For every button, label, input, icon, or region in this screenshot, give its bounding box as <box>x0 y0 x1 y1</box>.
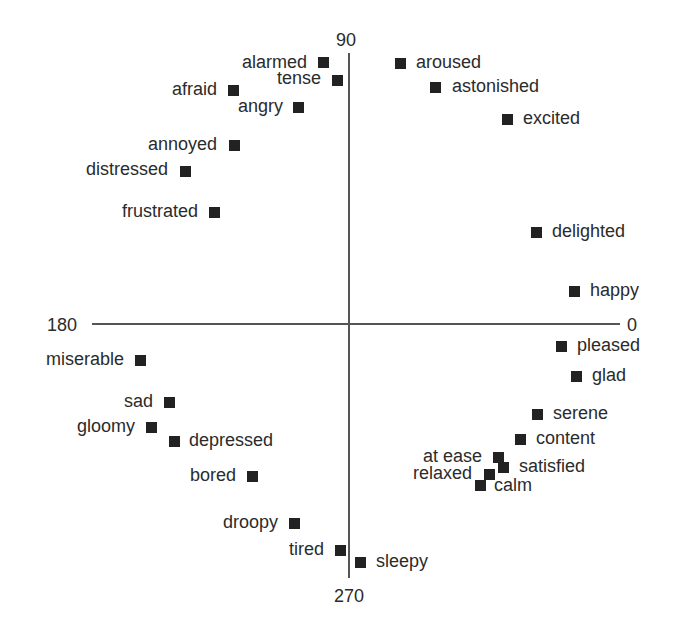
point-label-satisfied: satisfied <box>519 457 585 475</box>
point-label-tired: tired <box>289 540 324 558</box>
point-label-serene: serene <box>553 404 608 422</box>
marker-pleased <box>556 341 567 352</box>
point-label-happy: happy <box>590 281 639 299</box>
circumplex-chart: 90 0 180 270 alarmedtenseafraidangryanno… <box>0 0 674 634</box>
point-label-relaxed: relaxed <box>413 464 472 482</box>
vertical-axis <box>348 53 350 578</box>
marker-satisfied <box>498 462 509 473</box>
point-label-astonished: astonished <box>452 77 539 95</box>
marker-sad <box>164 397 175 408</box>
marker-happy <box>569 286 580 297</box>
point-label-depressed: depressed <box>189 431 273 449</box>
marker-gloomy <box>146 422 157 433</box>
point-label-pleased: pleased <box>577 336 640 354</box>
axis-label-left: 180 <box>47 316 77 334</box>
marker-bored <box>247 471 258 482</box>
marker-calm <box>475 480 486 491</box>
marker-excited <box>502 114 513 125</box>
marker-angry <box>293 102 304 113</box>
marker-miserable <box>135 355 146 366</box>
point-label-calm: calm <box>494 476 532 494</box>
marker-serene <box>532 409 543 420</box>
marker-alarmed <box>318 57 329 68</box>
axis-label-bottom: 270 <box>334 587 364 605</box>
marker-content <box>515 434 526 445</box>
marker-afraid <box>228 85 239 96</box>
point-label-aroused: aroused <box>416 53 481 71</box>
point-label-afraid: afraid <box>172 80 217 98</box>
marker-delighted <box>531 227 542 238</box>
marker-distressed <box>180 166 191 177</box>
point-label-sad: sad <box>124 392 153 410</box>
point-label-bored: bored <box>190 466 236 484</box>
point-label-frustrated: frustrated <box>122 202 198 220</box>
marker-tense <box>332 75 343 86</box>
marker-sleepy <box>355 557 366 568</box>
horizontal-axis <box>92 323 620 325</box>
point-label-annoyed: annoyed <box>148 135 217 153</box>
marker-annoyed <box>229 140 240 151</box>
axis-label-right: 0 <box>627 316 637 334</box>
marker-droopy <box>289 518 300 529</box>
marker-frustrated <box>209 207 220 218</box>
point-label-delighted: delighted <box>552 222 625 240</box>
point-label-excited: excited <box>523 109 580 127</box>
marker-astonished <box>430 82 441 93</box>
point-label-tense: tense <box>277 69 321 87</box>
marker-glad <box>571 371 582 382</box>
point-label-distressed: distressed <box>86 160 168 178</box>
marker-aroused <box>395 58 406 69</box>
point-label-content: content <box>536 429 595 447</box>
marker-depressed <box>169 436 180 447</box>
point-label-miserable: miserable <box>46 350 124 368</box>
marker-relaxed <box>484 469 495 480</box>
point-label-angry: angry <box>238 97 283 115</box>
marker-tired <box>335 545 346 556</box>
point-label-glad: glad <box>592 366 626 384</box>
point-label-droopy: droopy <box>223 513 278 531</box>
point-label-gloomy: gloomy <box>77 417 135 435</box>
point-label-sleepy: sleepy <box>376 552 428 570</box>
axis-label-top: 90 <box>336 31 356 49</box>
